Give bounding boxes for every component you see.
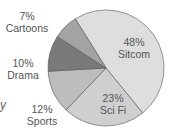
label-sitcom-pct: 48% — [116, 36, 152, 48]
label-scifi-name: Sci Fi — [96, 104, 130, 116]
label-drama-pct: 10% — [6, 57, 40, 69]
label-sports-name: Sports — [24, 115, 60, 127]
label-cartoons-pct: 7% — [2, 10, 52, 22]
label-drama-name: Drama — [6, 69, 40, 81]
label-sports-pct: 12% — [24, 103, 60, 115]
label-sports: 12% Sports — [24, 103, 60, 127]
label-cartoons: 7% Cartoons — [2, 10, 52, 34]
label-drama: 10% Drama — [6, 57, 40, 81]
label-sitcom-name: Sitcom — [116, 48, 152, 60]
label-cartoons-name: Cartoons — [2, 22, 52, 34]
label-sitcom: 48% Sitcom — [116, 36, 152, 60]
cropped-text-fragment: y — [0, 98, 6, 112]
label-scifi-pct: 23% — [96, 92, 130, 104]
label-scifi: 23% Sci Fi — [96, 92, 130, 116]
